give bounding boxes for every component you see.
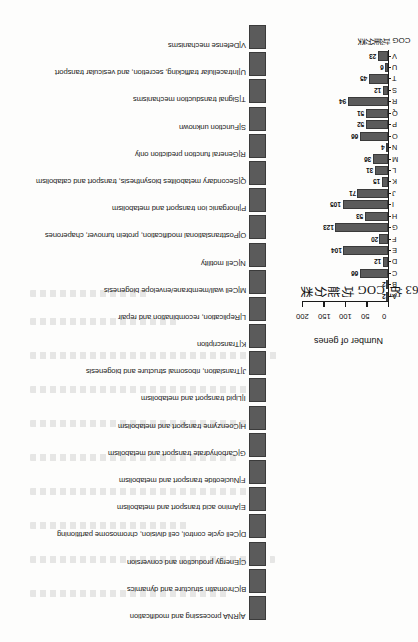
legend-color-swatch (249, 542, 266, 566)
figure-caption: 图 3-18 菌株 SYC63 的 COG 功能分类 (300, 281, 418, 300)
bar-slot: 20 (302, 233, 388, 244)
y-tick-200: 200 (302, 302, 303, 310)
bar-value-label: 45 (360, 75, 367, 82)
legend-color-swatch (249, 188, 266, 212)
legend-item-j: J|Translation, ribosomal structure and b… (18, 348, 266, 375)
bar-l (375, 166, 388, 175)
bar-value-label: 20 (371, 236, 378, 243)
bar-e (343, 246, 388, 255)
x-tick-f: F (388, 233, 398, 244)
bar-slot: 66 (302, 130, 388, 141)
bar-g (335, 223, 388, 232)
legend-color-swatch (249, 351, 266, 375)
legend-item-q: Q|Secondary metabolites biosynthesis, tr… (18, 158, 266, 185)
bar-value-label: 66 (351, 133, 358, 140)
legend-item-r: R|General function prediction only (18, 131, 266, 158)
bar-slot: 66 (302, 268, 388, 279)
legend-item-label: H|Coenzyme transport and metabolism (118, 422, 246, 430)
legend-item-k: K|Transcription (18, 321, 266, 348)
bar-slot: 6 (302, 62, 388, 73)
y-tick-50: 50 (367, 302, 368, 310)
x-tick-j: J (388, 188, 398, 199)
x-tick-u: U (388, 62, 398, 73)
legend-item-label: S|Function unknown (179, 123, 246, 131)
bar-value-label: 12 (374, 87, 381, 94)
bar-v (378, 51, 388, 60)
bar-value-label: 123 (323, 224, 334, 231)
x-tick-c: C (388, 268, 398, 279)
bar-c (360, 269, 388, 278)
legend-item-o: O|Posttranslational modification, protei… (18, 212, 266, 239)
x-tick-i: I (388, 199, 398, 210)
bar-value-label: 71 (349, 190, 356, 197)
bar-i (343, 200, 388, 209)
legend-color-swatch (249, 324, 266, 348)
legend-color-swatch (249, 569, 266, 593)
bar-value-label: 23 (369, 53, 376, 60)
x-tick-label: G (392, 223, 398, 232)
y-tick-0: 0 (388, 302, 389, 310)
legend-item-n: N|Cell motility (18, 239, 266, 266)
bar-value-label: 36 (364, 156, 371, 163)
legend-color-swatch (249, 107, 266, 131)
legend-item-label: J|Translation, ribosomal structure and b… (86, 368, 246, 376)
x-tick-mark (388, 56, 391, 57)
legend-item-label: O|Posttranslational modification, protei… (45, 232, 246, 240)
x-tick-mark (388, 90, 391, 91)
legend-color-swatch (249, 460, 266, 484)
x-tick-d: D (388, 256, 398, 267)
bar-slot: 45 (302, 73, 388, 84)
x-tick-mark (388, 136, 391, 137)
x-tick-label: Q (392, 109, 398, 118)
legend-item-label: L|Replication, recombination and repair (118, 313, 246, 321)
plot-area: 2266121042012353105711531364665251941245… (302, 50, 388, 302)
x-tick-label: U (392, 63, 397, 72)
bar-value-label: 104 (331, 247, 342, 254)
bar-slot: 4 (302, 142, 388, 153)
y-tick-mark (323, 302, 324, 307)
x-tick-mark (388, 227, 391, 228)
x-tick-l: L (388, 165, 398, 176)
bar-m (373, 154, 388, 163)
legend-item-label: E|Amino acid transport and metabolism (117, 504, 246, 512)
legend-item-l: L|Replication, recombination and repair (18, 294, 266, 321)
bar-slot: 23 (302, 50, 388, 61)
x-axis-label: COG 功能分类 (358, 35, 410, 46)
x-tick-mark (388, 204, 391, 205)
bar-o (360, 132, 388, 141)
bar-slot: 52 (302, 119, 388, 130)
legend-color-swatch (249, 514, 266, 538)
y-axis-label: Number of genes (314, 336, 383, 346)
x-axis-ticks: ABCDEFGHIJKLMNOPQRSTUV (388, 50, 398, 302)
legend-item-m: M|Cell wall/membrane/envelope biogenesis (18, 267, 266, 294)
x-tick-label: J (392, 189, 396, 198)
legend-item-h: H|Coenzyme transport and metabolism (18, 403, 266, 430)
legend-color-swatch (249, 596, 266, 620)
x-tick-q: Q (388, 108, 398, 119)
x-tick-label: D (392, 257, 397, 266)
bar-slot: 15 (302, 176, 388, 187)
x-tick-label: T (392, 74, 397, 83)
y-tick-label: 50 (361, 312, 369, 321)
legend-item-label: R|General function prediction only (135, 150, 246, 158)
y-tick-label: 0 (382, 312, 386, 321)
legend-color-swatch (249, 487, 266, 511)
x-tick-mark (388, 273, 391, 274)
x-tick-label: I (392, 200, 394, 209)
legend-color-swatch (249, 297, 266, 321)
legend-color-swatch (249, 25, 266, 49)
x-tick-mark (388, 181, 391, 182)
legend-item-d: D|Cell cycle control, cell division, chr… (18, 511, 266, 538)
x-tick-mark (388, 159, 391, 160)
legend-item-label: F|Nucleotide transport and metabolism (119, 476, 246, 484)
legend-item-u: U|Intracellular trafficking, secretion, … (18, 49, 266, 76)
bar-slot: 71 (302, 188, 388, 199)
legend-item-g: G|Carbohydrate transport and metabolism (18, 430, 266, 457)
legend-item-label: C|Energy production and conversion (127, 558, 246, 566)
legend-color-swatch (249, 270, 266, 294)
x-tick-label: O (392, 132, 398, 141)
x-tick-mark (388, 124, 391, 125)
x-tick-mark (388, 67, 391, 68)
legend-item-t: T|Signal transduction mechanisms (18, 76, 266, 103)
y-tick-100: 100 (345, 302, 346, 310)
